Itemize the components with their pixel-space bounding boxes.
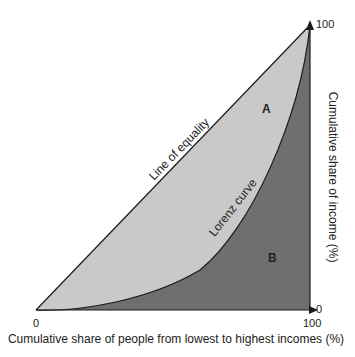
y-axis-title: Cumulative share of income (%) <box>326 92 340 263</box>
y-max-label: 100 <box>316 18 334 30</box>
region-a-label: A <box>262 102 271 116</box>
region-b-label: B <box>268 251 277 265</box>
y-min-label: 0 <box>316 303 322 315</box>
lorenz-diagram: 0 100 100 0 Cumulative share of people f… <box>0 0 355 357</box>
y-axis-arrow-icon <box>306 20 314 30</box>
x-max-label: 100 <box>303 317 321 329</box>
x-min-label: 0 <box>33 317 39 329</box>
x-axis-title: Cumulative share of people from lowest t… <box>8 332 344 346</box>
